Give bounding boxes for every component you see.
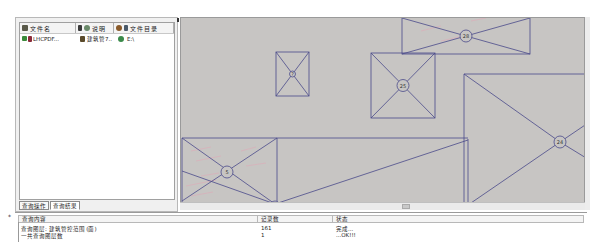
column-header-count[interactable]: 记录数 — [258, 216, 333, 222]
feature-24 — [464, 74, 585, 210]
layer-list-header: 文件名 说明 文件目录 — [20, 23, 174, 34]
column-header-filename[interactable]: 文件名 — [20, 23, 76, 33]
row-content: 一共查询图层数 — [18, 232, 258, 239]
globe-icon — [116, 25, 122, 31]
horizontal-scrollbar[interactable] — [180, 202, 585, 210]
column-header-directory[interactable]: 文件目录 — [114, 23, 174, 33]
layer-checkbox[interactable] — [22, 36, 27, 41]
file-name: LHCPDF... — [33, 36, 59, 42]
column-label: 文件目录 — [130, 24, 158, 33]
results-header: 查询内容 记录数 状态 — [18, 215, 584, 223]
globe-icon — [118, 36, 124, 42]
tab-query-operation[interactable]: 查询操作 — [19, 201, 49, 210]
feature-label: ? — [291, 71, 294, 77]
column-header-content[interactable]: 查询内容 — [19, 216, 258, 222]
vertical-scrollbar[interactable] — [585, 17, 590, 210]
splitter-handle[interactable] — [177, 18, 179, 22]
row-count: 1 — [258, 232, 333, 239]
column-label: 状态 — [336, 215, 348, 223]
row-content: 查询图层: 建筑管控范围 (面) — [18, 225, 258, 232]
layer-panel: 文件名 说明 文件目录 LHCPDF... 建筑管7.. — [15, 17, 178, 212]
feature-label: 5 — [225, 169, 228, 175]
feature-label: 24 — [557, 139, 563, 145]
row-status: ...OK!!! — [333, 232, 584, 239]
feature-label: 28 — [463, 33, 469, 39]
column-header-description[interactable]: 说明 — [76, 23, 114, 33]
feature-label: 25 — [400, 83, 406, 89]
row-status: 完成... — [333, 225, 584, 232]
tab-label: 查询结果 — [53, 202, 77, 210]
table-row[interactable]: 一共查询图层数 1 ...OK!!! — [18, 232, 584, 239]
panel-tabs: 查询操作 查询结果 — [19, 201, 80, 210]
divider — [18, 222, 19, 242]
table-row[interactable]: 查询图层: 建筑管控范围 (面) 161 完成... — [18, 225, 584, 232]
scrollbar-thumb[interactable] — [402, 204, 410, 209]
file-icon — [28, 36, 32, 42]
panel-pin-icon[interactable]: * — [8, 213, 11, 220]
column-label: 说明 — [92, 24, 106, 33]
map-canvas[interactable]: ? 25 28 24 5 — [180, 17, 585, 210]
layer-row[interactable]: LHCPDF... 建筑管7.. E:\ — [20, 34, 174, 43]
row-count: 161 — [258, 225, 333, 232]
pin-icon — [78, 25, 82, 31]
results-table: 查询内容 记录数 状态 查询图层: 建筑管控范围 (面) 161 完成... 一… — [15, 212, 587, 250]
layer-list: 文件名 说明 文件目录 LHCPDF... 建筑管7.. — [19, 22, 175, 200]
layer-icon — [22, 25, 28, 31]
folder-icon — [124, 25, 128, 31]
layer-type-icon — [80, 36, 85, 42]
tab-label: 查询操作 — [22, 202, 46, 210]
eye-icon — [84, 25, 90, 31]
tab-query-results[interactable]: 查询结果 — [50, 201, 80, 210]
column-label: 查询内容 — [22, 215, 46, 223]
column-label: 记录数 — [261, 215, 279, 223]
file-directory: E:\ — [127, 36, 134, 42]
column-header-status[interactable]: 状态 — [333, 216, 583, 222]
layer-description: 建筑管7.. — [87, 35, 112, 43]
column-label: 文件名 — [30, 24, 51, 33]
